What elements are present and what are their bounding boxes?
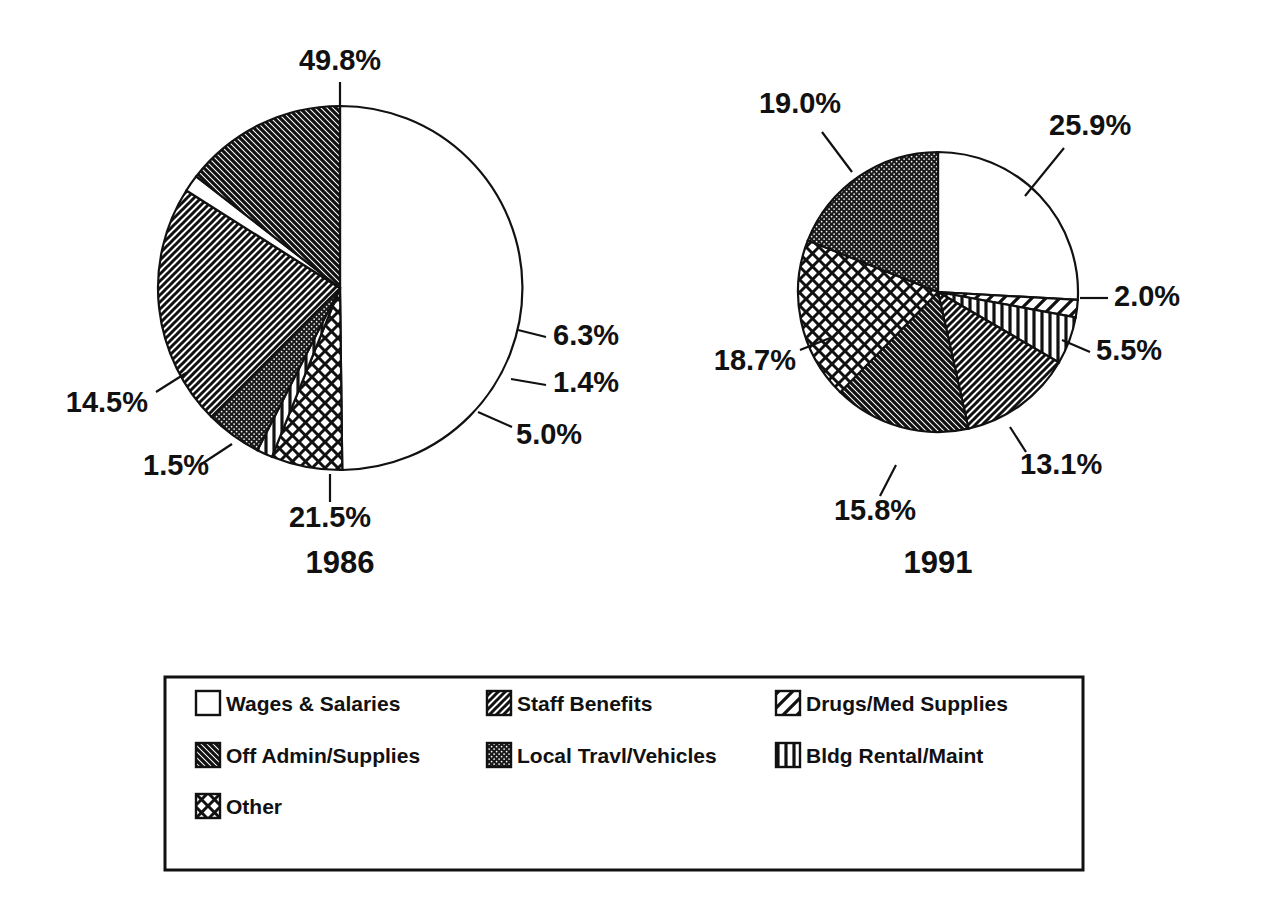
pie-group-1991: 25.9%2.0%5.5%13.1%15.8%18.7%19.0% 1991 — [714, 87, 1181, 580]
legend-swatch-dark-dot-icon — [487, 743, 511, 767]
pie-value-label-benefits: 21.5% — [289, 501, 371, 533]
legend-item: Wages & Salaries — [196, 691, 400, 715]
legend-item: Off Admin/Supplies — [196, 743, 420, 767]
pie-value-label-wages: 25.9% — [1049, 109, 1131, 141]
leader-line-travel — [478, 412, 512, 427]
legend-item: Other — [196, 794, 282, 818]
leader-line-offadmin — [156, 373, 186, 392]
pie-charts-figure: 49.8%6.3%1.4%5.0%21.5%1.5%14.5% 1986 25.… — [0, 0, 1284, 916]
pie-value-label-bldg: 5.5% — [1096, 334, 1162, 366]
legend-item: Local Travl/Vehicles — [487, 743, 717, 767]
pie-value-label-other: 18.7% — [714, 344, 796, 376]
legend-label: Drugs/Med Supplies — [806, 692, 1008, 715]
pie-value-label-wages: 49.8% — [299, 44, 381, 76]
pie-value-label-travel: 19.0% — [759, 87, 841, 119]
pie-value-label-offadmin: 15.8% — [834, 494, 916, 526]
pie-value-label-other: 6.3% — [553, 319, 619, 351]
legend-swatch-fwd-hatch-icon — [487, 691, 511, 715]
legend-label: Local Travl/Vehicles — [517, 744, 717, 767]
legend-swatch-back-hatch-icon — [196, 743, 220, 767]
legend-swatch-crosshatch-icon — [196, 794, 220, 818]
legend-item: Staff Benefits — [487, 691, 652, 715]
legend-items: Wages & SalariesStaff BenefitsDrugs/Med … — [196, 691, 1008, 818]
legend-label: Other — [226, 795, 282, 818]
pie-slice-wages — [340, 106, 522, 470]
pie-value-label-drugs: 2.0% — [1114, 280, 1180, 312]
pie-value-label-bldg: 1.4% — [553, 366, 619, 398]
pie-1986-slices — [158, 106, 522, 470]
pie-1991-slices — [798, 152, 1078, 432]
figure-canvas: 49.8%6.3%1.4%5.0%21.5%1.5%14.5% 1986 25.… — [0, 0, 1284, 916]
pie-value-label-travel: 5.0% — [516, 418, 582, 450]
legend: Wages & SalariesStaff BenefitsDrugs/Med … — [165, 677, 1083, 870]
leader-line-wages — [1025, 148, 1064, 196]
legend-item: Drugs/Med Supplies — [776, 691, 1008, 715]
pie-value-label-drugs: 1.5% — [143, 449, 209, 481]
legend-label: Wages & Salaries — [226, 692, 400, 715]
leader-line-other — [518, 330, 546, 337]
legend-label: Bldg Rental/Maint — [806, 744, 983, 767]
year-label-1991: 1991 — [904, 545, 973, 580]
legend-swatch-vertical-icon — [776, 743, 800, 767]
legend-item: Bldg Rental/Maint — [776, 743, 983, 767]
pie-value-label-offadmin: 14.5% — [66, 386, 148, 418]
legend-swatch-solid-white-icon — [196, 691, 220, 715]
legend-label: Off Admin/Supplies — [226, 744, 420, 767]
pie-value-label-benefits: 13.1% — [1020, 448, 1102, 480]
year-label-1986: 1986 — [306, 545, 375, 580]
legend-swatch-wide-diag-icon — [776, 691, 800, 715]
pie-slice-wages — [938, 152, 1078, 300]
leader-line-bldg — [511, 379, 546, 385]
legend-label: Staff Benefits — [517, 692, 652, 715]
pie-group-1986: 49.8%6.3%1.4%5.0%21.5%1.5%14.5% 1986 — [66, 44, 620, 580]
leader-line-travel — [822, 132, 852, 172]
leader-line-offadmin — [880, 465, 896, 496]
